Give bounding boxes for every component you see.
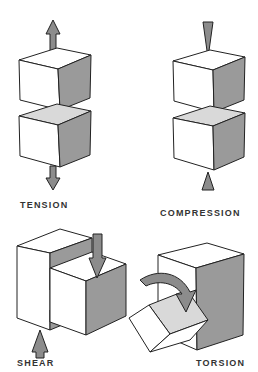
shear-label: SHEAR (17, 358, 55, 368)
compression-figure (173, 22, 245, 190)
tension-figure (19, 20, 91, 190)
torsion-label: TORSION (196, 358, 245, 368)
shear-up-arrow-icon (32, 330, 48, 358)
shear-figure (17, 229, 126, 358)
compression-up-arrow-icon (202, 172, 214, 190)
tension-label: TENSION (20, 200, 68, 210)
torsion-figure (129, 243, 244, 352)
compression-label: COMPRESSION (160, 208, 241, 218)
diagram-canvas (0, 0, 258, 372)
stress-types-diagram: TENSION COMPRESSION SHEAR TORSION (0, 0, 258, 372)
tension-down-arrow-icon (46, 166, 60, 190)
